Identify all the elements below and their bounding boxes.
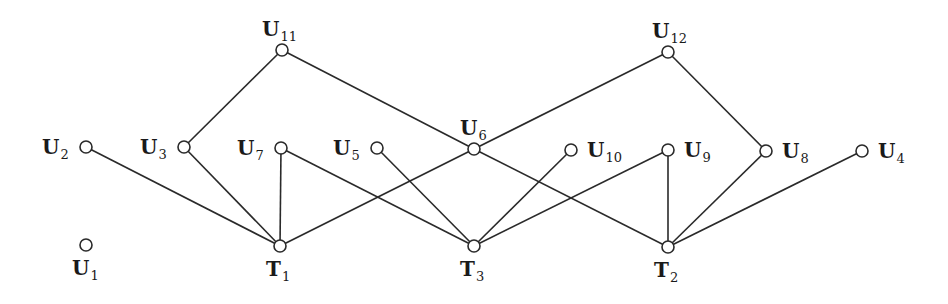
edge-u5-t3 — [377, 148, 474, 246]
node-t3 — [468, 240, 480, 252]
node-label-u10: U10 — [587, 138, 622, 165]
node-label-t1: T1 — [266, 257, 290, 284]
node-u10 — [565, 144, 577, 156]
node-label-u7: U7 — [237, 136, 264, 163]
node-u5 — [371, 142, 383, 154]
node-label-u3: U3 — [140, 135, 167, 162]
node-label-t2: T2 — [654, 258, 678, 285]
edge-u4-t2 — [668, 151, 862, 247]
graph-diagram: U11U12U2U3U7U5U6U10U9U8U4U1T1T3T2 — [0, 0, 948, 304]
node-label-u11: U11 — [262, 17, 297, 44]
node-u1 — [80, 239, 92, 251]
node-u6 — [468, 143, 480, 155]
node-t2 — [662, 241, 674, 253]
edge-u11-u6 — [282, 50, 474, 149]
node-label-t3: T3 — [460, 257, 484, 284]
edge-u3-u11 — [184, 50, 282, 147]
node-u3 — [178, 141, 190, 153]
node-label-u2: U2 — [42, 135, 69, 162]
node-label-u6: U6 — [460, 116, 487, 143]
node-u2 — [80, 141, 92, 153]
edge-u3-t1 — [184, 147, 280, 246]
edge-u12-u8 — [668, 52, 766, 151]
node-t1 — [274, 240, 286, 252]
edge-u10-t3 — [474, 150, 571, 246]
node-label-u4: U4 — [878, 139, 905, 166]
node-u4 — [856, 145, 868, 157]
node-u12 — [662, 46, 674, 58]
node-label-u5: U5 — [333, 136, 360, 163]
edge-u7-t1 — [280, 148, 281, 246]
node-label-u9: U9 — [684, 138, 711, 165]
node-u11 — [276, 44, 288, 56]
node-u9 — [662, 144, 674, 156]
node-u8 — [760, 145, 772, 157]
node-label-u12: U12 — [652, 19, 687, 46]
node-u7 — [275, 142, 287, 154]
nodes-layer — [80, 44, 868, 253]
edge-u6-u12 — [474, 52, 668, 149]
node-label-u1: U1 — [72, 256, 99, 283]
node-label-u8: U8 — [782, 139, 809, 166]
edge-u2-t1 — [86, 147, 280, 246]
edge-u8-t2 — [668, 151, 766, 247]
